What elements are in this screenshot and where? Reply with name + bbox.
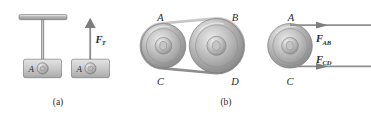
block-a-label: A [28,64,35,74]
pulley-right [189,19,243,73]
block-a-freebody-label: A [76,64,83,74]
caption-panel-b: (b) [220,97,231,108]
figure-canvas: A A F T (a) [0,0,371,118]
belt-point-b-label: B [232,12,239,23]
pulley-left [141,24,186,69]
force-t-subscript: T [102,39,107,46]
belt-point-d-label: D [230,76,239,87]
force-ab-subscript: AB [321,39,331,46]
force-ab-label-group: F AB [315,33,332,46]
freebody-point-a-label: A [287,12,295,23]
pulley-freebody-subfigure: A C F AB F CD [268,12,371,87]
force-cd-label-group: F CD [315,54,332,67]
force-t-label-group: F T [95,34,107,47]
physics-figure: A A F T (a) [0,0,371,118]
belt-point-c-label: C [157,76,165,87]
belt-point-a-label: A [156,12,164,23]
hanging-block-subfigure: A [19,15,67,78]
freebody-block-subfigure: A F T [72,24,110,78]
ceiling-support [19,15,67,20]
block-a-freebody: A [72,59,110,77]
belt-drive-subfigure: A B C D [141,12,244,87]
pulley-freebody [268,24,313,69]
freebody-point-c-label: C [286,76,294,87]
caption-panel-a: (a) [53,97,64,108]
suspension-cord [41,20,44,60]
force-cd-subscript: CD [322,59,331,66]
block-a-hanging: A [24,59,62,77]
